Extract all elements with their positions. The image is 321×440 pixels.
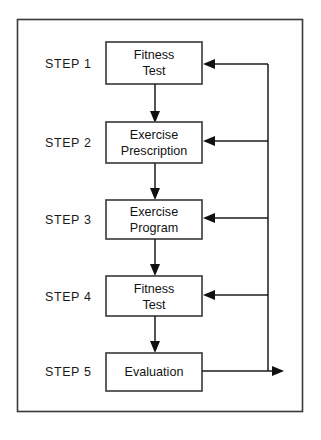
node-label-step-1-line-2: Test [142, 64, 166, 78]
flowchart-canvas: STEP 1 Fitness Test STEP 2 Exercise Pres… [0, 0, 321, 440]
node-label-step-4-line-1: Fitness [134, 282, 175, 296]
step-label-2: STEP 2 [45, 136, 91, 150]
node-label-step-2-line-1: Exercise [130, 128, 178, 142]
node-label-step-2-line-2: Prescription [121, 144, 188, 158]
node-label-step-3-line-1: Exercise [130, 205, 178, 219]
node-label-step-4-line-2: Test [142, 298, 166, 312]
flowchart-figure: STEP 1 Fitness Test STEP 2 Exercise Pres… [0, 0, 321, 440]
step-label-5: STEP 5 [45, 365, 91, 379]
step-label-4: STEP 4 [45, 290, 91, 304]
node-label-step-3-line-2: Program [130, 221, 178, 235]
step-label-3: STEP 3 [45, 213, 91, 227]
arrowhead-feedback-step-1 [203, 59, 215, 69]
arrowhead-down-2 [150, 188, 160, 200]
node-label-step-5-line-1: Evaluation [125, 365, 184, 379]
arrowhead-feedback-step-4 [203, 290, 215, 300]
node-label-step-1-line-1: Fitness [134, 48, 175, 62]
step-label-1: STEP 1 [45, 57, 91, 71]
arrowhead-feedback-rail-entry [272, 366, 284, 376]
arrowhead-feedback-step-2 [203, 136, 215, 146]
arrowhead-feedback-step-3 [203, 213, 215, 223]
arrowhead-down-3 [150, 264, 160, 276]
arrowhead-down-4 [150, 341, 160, 353]
